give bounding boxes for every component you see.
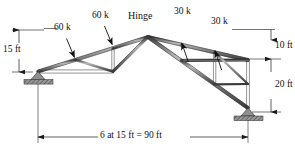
load-arrow-left-inner bbox=[105, 26, 113, 45]
dimension-label-span: 6 at 15 ft = 90 ft bbox=[100, 131, 162, 141]
right-support-ground bbox=[234, 116, 263, 121]
member-edge bbox=[148, 39, 248, 62]
member-right-diagonal-1 bbox=[181, 61, 214, 85]
right-support bbox=[234, 108, 263, 121]
load-arrow-left-outer bbox=[67, 39, 75, 58]
dimension-label-15ft: 15 ft bbox=[3, 45, 21, 55]
left-support-ground bbox=[24, 80, 53, 85]
left-support bbox=[24, 72, 53, 85]
joint bbox=[112, 47, 114, 49]
member-edge bbox=[38, 39, 148, 74]
dimension-label-10ft: 10 ft bbox=[275, 41, 293, 51]
load-label-left-inner: 60 k bbox=[92, 11, 109, 21]
truss-diagram: 15 ft 60 k 60 k Hinge 30 k 30 k 10 ft 20… bbox=[0, 0, 295, 154]
dimension-label-20ft: 20 ft bbox=[275, 80, 293, 90]
joint bbox=[75, 59, 77, 61]
load-label-right-outer: 30 k bbox=[211, 17, 228, 27]
hinge-label: Hinge bbox=[128, 11, 152, 21]
hinge-joint bbox=[146, 35, 150, 39]
load-label-left-outer: 60 k bbox=[54, 23, 71, 33]
load-label-right-inner: 30 k bbox=[174, 7, 191, 17]
